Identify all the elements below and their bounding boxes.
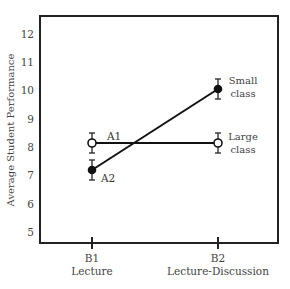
y-tick-10: 10 xyxy=(21,84,34,96)
y-tick-11: 11 xyxy=(21,56,34,68)
plot-frame xyxy=(40,16,278,243)
annotation-small-class-line2: class xyxy=(230,88,255,99)
x-label-b1-name: Lecture xyxy=(71,265,112,277)
label-a2: A2 xyxy=(100,172,115,184)
annotation-large-class-line2: class xyxy=(230,144,255,155)
marker-a1-b2 xyxy=(214,139,222,147)
y-axis-title: Average Student Performance xyxy=(5,54,16,208)
y-tick-9: 9 xyxy=(27,113,34,125)
marker-a2-b2 xyxy=(214,85,223,94)
label-a1: A1 xyxy=(106,130,121,142)
y-tick-8: 8 xyxy=(27,141,34,153)
interaction-chart: 12 11 10 9 8 7 6 5 Average Student Perfo… xyxy=(0,0,290,289)
y-tick-5: 5 xyxy=(27,226,34,238)
x-label-b2-name: Lecture-Discussion xyxy=(167,265,269,277)
x-label-b1-code: B1 xyxy=(85,252,99,264)
marker-a2-b1 xyxy=(88,166,97,175)
y-axis-ticks: 12 11 10 9 8 7 6 5 xyxy=(21,28,35,238)
y-tick-6: 6 xyxy=(27,198,34,210)
marker-a1-b1 xyxy=(88,139,96,147)
x-label-b2-code: B2 xyxy=(211,252,225,264)
annotation-small-class-line1: Small xyxy=(229,75,258,86)
y-tick-12: 12 xyxy=(21,28,34,40)
y-tick-7: 7 xyxy=(27,169,34,181)
annotation-large-class-line1: Large xyxy=(228,131,258,142)
